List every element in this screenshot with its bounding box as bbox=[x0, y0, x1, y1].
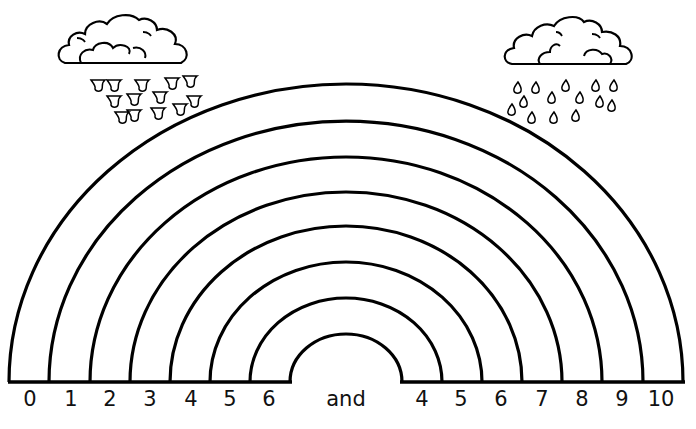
right-number: 5 bbox=[454, 389, 467, 410]
raindrops bbox=[508, 80, 617, 123]
left-number: 0 bbox=[23, 389, 36, 410]
left-number: 4 bbox=[184, 389, 197, 410]
rainbow-worksheet bbox=[0, 0, 696, 429]
raindrop bbox=[514, 82, 521, 93]
right-number: 9 bbox=[615, 389, 628, 410]
rainbow-arc bbox=[170, 226, 522, 382]
right-number: 7 bbox=[535, 389, 548, 410]
cloud-shape bbox=[505, 17, 632, 64]
raindrop bbox=[187, 96, 201, 107]
raindrop bbox=[610, 80, 617, 91]
left-number: 3 bbox=[143, 389, 156, 410]
cloud-shape bbox=[59, 15, 187, 63]
raindrop bbox=[562, 80, 569, 91]
connector-word: and bbox=[326, 389, 366, 410]
raindrop bbox=[576, 92, 583, 103]
raindrop bbox=[173, 104, 187, 115]
raindrop bbox=[183, 76, 197, 87]
raindrop bbox=[165, 78, 179, 89]
raindrop bbox=[151, 108, 165, 119]
rain-cloud-right-icon bbox=[505, 17, 632, 123]
raindrop bbox=[153, 92, 167, 103]
raindrop bbox=[608, 100, 615, 111]
raindrop bbox=[528, 112, 535, 123]
raindrop bbox=[596, 96, 603, 107]
right-number: 6 bbox=[494, 389, 507, 410]
left-number: 1 bbox=[64, 389, 77, 410]
raindrop bbox=[107, 96, 121, 107]
raindrops bbox=[91, 76, 201, 123]
raindrop bbox=[127, 94, 141, 105]
right-number: 8 bbox=[575, 389, 588, 410]
rainbow-arc bbox=[130, 192, 562, 382]
raindrop bbox=[532, 82, 539, 93]
raindrop bbox=[508, 104, 515, 115]
raindrop bbox=[91, 80, 105, 91]
raindrop bbox=[550, 112, 557, 123]
raindrop bbox=[107, 80, 121, 91]
rain-cloud-left-icon bbox=[59, 15, 201, 123]
left-number: 5 bbox=[223, 389, 236, 410]
raindrop bbox=[592, 80, 599, 91]
rainbow-arc bbox=[250, 298, 442, 382]
rainbow-arcs bbox=[9, 84, 683, 382]
right-number: 10 bbox=[648, 389, 675, 410]
raindrop bbox=[115, 112, 129, 123]
left-number: 2 bbox=[103, 389, 116, 410]
raindrop bbox=[135, 80, 149, 91]
rainbow-arc bbox=[9, 84, 683, 382]
left-number: 6 bbox=[262, 389, 275, 410]
rainbow-arc bbox=[290, 334, 402, 382]
raindrop bbox=[548, 92, 555, 103]
right-number: 4 bbox=[415, 389, 428, 410]
raindrop bbox=[520, 96, 527, 107]
raindrop bbox=[572, 110, 579, 121]
